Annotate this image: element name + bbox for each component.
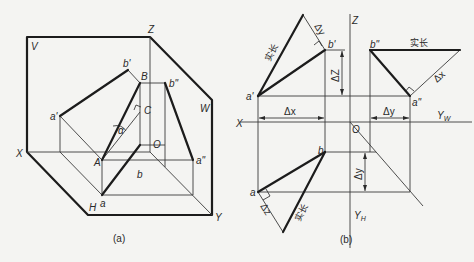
label-delta-y-top: Δy: [353, 168, 364, 180]
label-B: B: [141, 71, 148, 82]
projector-b-prime-B: [128, 70, 140, 83]
miter-line-45: [350, 122, 423, 206]
label-A: A: [93, 157, 101, 168]
projector-a-prime-A: [60, 116, 102, 160]
label-C: C: [144, 105, 152, 116]
label-delta-y-triangle: Δy: [312, 21, 328, 37]
right-angle-mark-front: [314, 41, 322, 46]
projection-diagram: V Z W X Y H O a' b' B b" C α A a" b a (a…: [0, 0, 474, 262]
segment-a-prime-b-prime: [60, 70, 128, 116]
label-b-double-prime: b": [169, 78, 179, 89]
label-h-plane: H: [89, 202, 97, 213]
label-delta-z: ΔZ: [330, 69, 341, 82]
label-origin-b: O: [352, 124, 360, 135]
label-delta-z-triangle: Δz: [258, 201, 274, 217]
label-a-prime: a': [50, 111, 59, 122]
label-a: a: [100, 198, 106, 209]
label-true-length-side: 实长: [410, 37, 428, 48]
label-b-b: b: [318, 145, 324, 156]
segment-b-double-prime-a-double-prime-b: [370, 50, 410, 96]
label-z-axis-b: Z: [351, 15, 359, 26]
label-b-prime: b': [123, 58, 132, 69]
label-a-b: a: [250, 187, 256, 198]
label-alpha: α: [118, 125, 124, 136]
segment-A-B: [102, 83, 140, 160]
label-z-axis: Z: [147, 24, 155, 35]
label-b: b: [137, 169, 143, 180]
caption-a: (a): [113, 233, 125, 244]
label-x-axis-b: X: [235, 118, 243, 129]
label-a-prime-b: a': [246, 91, 255, 102]
label-true-length-top: 实长: [292, 202, 310, 223]
figure-b-orthographic: Z X O YW YH a' b' b" a" b a Δx ΔZ Δy Δy …: [235, 14, 472, 248]
label-yw-axis: YW: [437, 110, 452, 122]
right-angle-mark-top: [263, 189, 270, 200]
label-y-axis: Y: [215, 212, 223, 223]
label-a-double-prime-b: a": [412, 97, 422, 108]
label-yh-axis: YH: [354, 210, 367, 222]
label-delta-x-front: Δx: [284, 106, 296, 117]
label-w-plane: W: [200, 103, 211, 114]
figure-a-pictorial: V Z W X Y H O a' b' B b" C α A a" b a (a…: [15, 24, 223, 244]
label-delta-y-side: Δy: [383, 106, 395, 117]
label-origin: O: [153, 139, 161, 150]
label-x-axis: X: [15, 148, 23, 159]
segment-b-double-prime-a-double-prime: [165, 83, 193, 160]
label-b-double-prime-b: b": [370, 39, 380, 50]
label-b-prime-b: b': [328, 39, 337, 50]
label-a-double-prime: a": [196, 155, 206, 166]
label-v-plane: V: [31, 41, 39, 52]
caption-b: (b): [340, 234, 352, 245]
label-delta-x-triangle: Δx: [431, 68, 447, 84]
